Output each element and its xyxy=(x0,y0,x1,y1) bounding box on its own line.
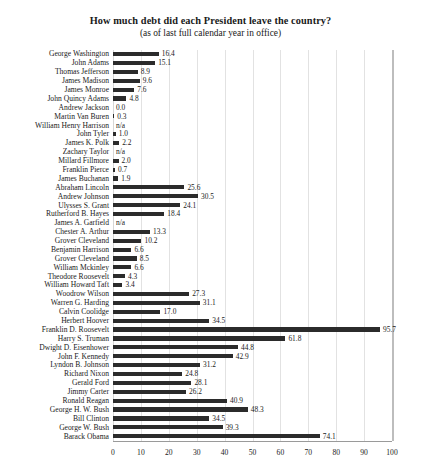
bar xyxy=(113,416,209,420)
bar-row: Gerald Ford28.1 xyxy=(113,379,392,388)
bar-value-label: 1.0 xyxy=(119,130,128,138)
bar-row: William Howard Taft3.4 xyxy=(113,281,392,290)
bar xyxy=(113,114,114,118)
bar-category-label: James Buchanan xyxy=(58,175,109,183)
bar-row: George H. W. Bush48.3 xyxy=(113,405,392,414)
bar-row: Abraham Lincoln25.6 xyxy=(113,183,392,192)
bar-value-label: n/a xyxy=(116,122,125,130)
bar-row: James K. Polk2.2 xyxy=(113,139,392,148)
bar xyxy=(113,283,122,287)
bar-row: James Buchanan1.9 xyxy=(113,174,392,183)
bar-value-label: 4.8 xyxy=(129,95,138,103)
bar-row: James Madison9.6 xyxy=(113,77,392,86)
bar xyxy=(113,372,182,376)
bar xyxy=(113,159,119,163)
bar-value-label: 7.6 xyxy=(137,86,146,94)
bar-row: Woodrow Wilson27.3 xyxy=(113,290,392,299)
bar-row: Andrew Johnson30.5 xyxy=(113,192,392,201)
bar xyxy=(113,132,116,136)
bar-category-label: Jimmy Carter xyxy=(67,388,109,396)
bar-row: Benjamin Harrison6.6 xyxy=(113,246,392,255)
bar-category-label: George Washington xyxy=(49,50,109,58)
bar xyxy=(113,96,126,100)
bar-value-label: 31.1 xyxy=(203,299,216,307)
bar-value-label: 74.1 xyxy=(323,433,336,441)
bar-row: Andrew Jackson0.0 xyxy=(113,103,392,112)
x-tick-label-40: 40 xyxy=(221,448,229,457)
bar-value-label: 28.1 xyxy=(194,379,207,387)
bar xyxy=(113,79,140,83)
bar-category-label: John Adams xyxy=(72,59,109,67)
bar-rows: George Washington16.4John Adams15.1Thoma… xyxy=(113,50,392,441)
bar-category-label: Harry S. Truman xyxy=(58,335,109,343)
bar-value-label: 30.5 xyxy=(201,193,214,201)
bar xyxy=(113,327,380,331)
bar xyxy=(113,203,180,207)
bar xyxy=(113,248,131,252)
bar-category-label: Gerald Ford xyxy=(72,379,109,387)
bar-value-label: 40.9 xyxy=(230,397,243,405)
bar-row: George Washington16.4 xyxy=(113,50,392,59)
bar-value-label: 0.0 xyxy=(116,104,125,112)
bar-category-label: John Quincy Adams xyxy=(47,95,109,103)
bar-row: Richard Nixon24.8 xyxy=(113,370,392,379)
bar-category-label: George W. Bush xyxy=(59,424,109,432)
bar-row: William Henry Harrisonn/a xyxy=(113,121,392,130)
bar-value-label: n/a xyxy=(116,148,125,156)
bar xyxy=(113,141,119,145)
x-tick-label-100: 100 xyxy=(386,448,397,457)
bar-value-label: 13.3 xyxy=(153,228,166,236)
bar-value-label: 6.6 xyxy=(134,264,143,272)
bar-row: Dwight D. Eisenhower44.8 xyxy=(113,343,392,352)
bar-category-label: James A. Garfield xyxy=(54,219,109,227)
bar-value-label: 10.2 xyxy=(144,237,157,245)
bar-category-label: Millard Fillmore xyxy=(58,157,109,165)
bar xyxy=(113,88,134,92)
bar-value-label: 9.6 xyxy=(143,77,152,85)
bar-category-label: James Monroe xyxy=(65,86,110,94)
bar xyxy=(113,407,248,411)
bar-value-label: n/a xyxy=(116,219,125,227)
bar-row: Franklin D. Roosevelt95.7 xyxy=(113,325,392,334)
bar-row: Millard Fillmore2.0 xyxy=(113,157,392,166)
bar-category-label: Martin Van Buren xyxy=(54,113,109,121)
bar xyxy=(113,292,189,296)
bar-category-label: Grover Cleveland xyxy=(55,237,109,245)
bar-value-label: 2.0 xyxy=(122,157,131,165)
bar-value-label: 18.4 xyxy=(167,210,180,218)
bar-row: Calvin Coolidge17.0 xyxy=(113,308,392,317)
bar-row: Martin Van Buren0.3 xyxy=(113,112,392,121)
x-axis: 0102030405060708090100 xyxy=(113,441,392,465)
bar-row: Franklin Pierce0.7 xyxy=(113,166,392,175)
bar xyxy=(113,274,125,278)
bar-row: Rutherford B. Hayes18.4 xyxy=(113,210,392,219)
bar-category-label: Rutherford B. Hayes xyxy=(46,210,109,218)
bar-category-label: James K. Polk xyxy=(65,139,109,147)
bar-row: Barack Obama74.1 xyxy=(113,432,392,441)
x-tick-label-80: 80 xyxy=(332,448,340,457)
bar-category-label: William Henry Harrison xyxy=(35,122,109,130)
x-tick-label-50: 50 xyxy=(249,448,257,457)
chart-title-block: How much debt did each President leave t… xyxy=(0,14,421,40)
bar-value-label: 17.0 xyxy=(163,308,176,316)
bar xyxy=(113,301,200,305)
gridline-100 xyxy=(392,50,394,441)
bar-category-label: Woodrow Wilson xyxy=(56,290,109,298)
bar-category-label: Ronald Reagan xyxy=(62,397,109,405)
bar-category-label: Grover Cleveland xyxy=(55,255,109,263)
bar-row: Lyndon B. Johnson31.2 xyxy=(113,361,392,370)
bar-value-label: 39.3 xyxy=(226,424,239,432)
bar xyxy=(113,176,118,180)
bar xyxy=(113,381,191,385)
bar-row: Theodore Roosevelt4.3 xyxy=(113,272,392,281)
bar-value-label: 34.5 xyxy=(212,415,225,423)
bar xyxy=(113,425,223,429)
chart-subtitle: (as of last full calendar year in office… xyxy=(0,27,421,40)
x-tick-label-60: 60 xyxy=(277,448,285,457)
bar-row: John F. Kennedy42.9 xyxy=(113,352,392,361)
bar-category-label: Abraham Lincoln xyxy=(55,184,109,192)
bar xyxy=(113,310,160,314)
bar-value-label: 24.8 xyxy=(185,370,198,378)
bar-row: Bill Clinton34.5 xyxy=(113,414,392,423)
bar xyxy=(113,345,238,349)
